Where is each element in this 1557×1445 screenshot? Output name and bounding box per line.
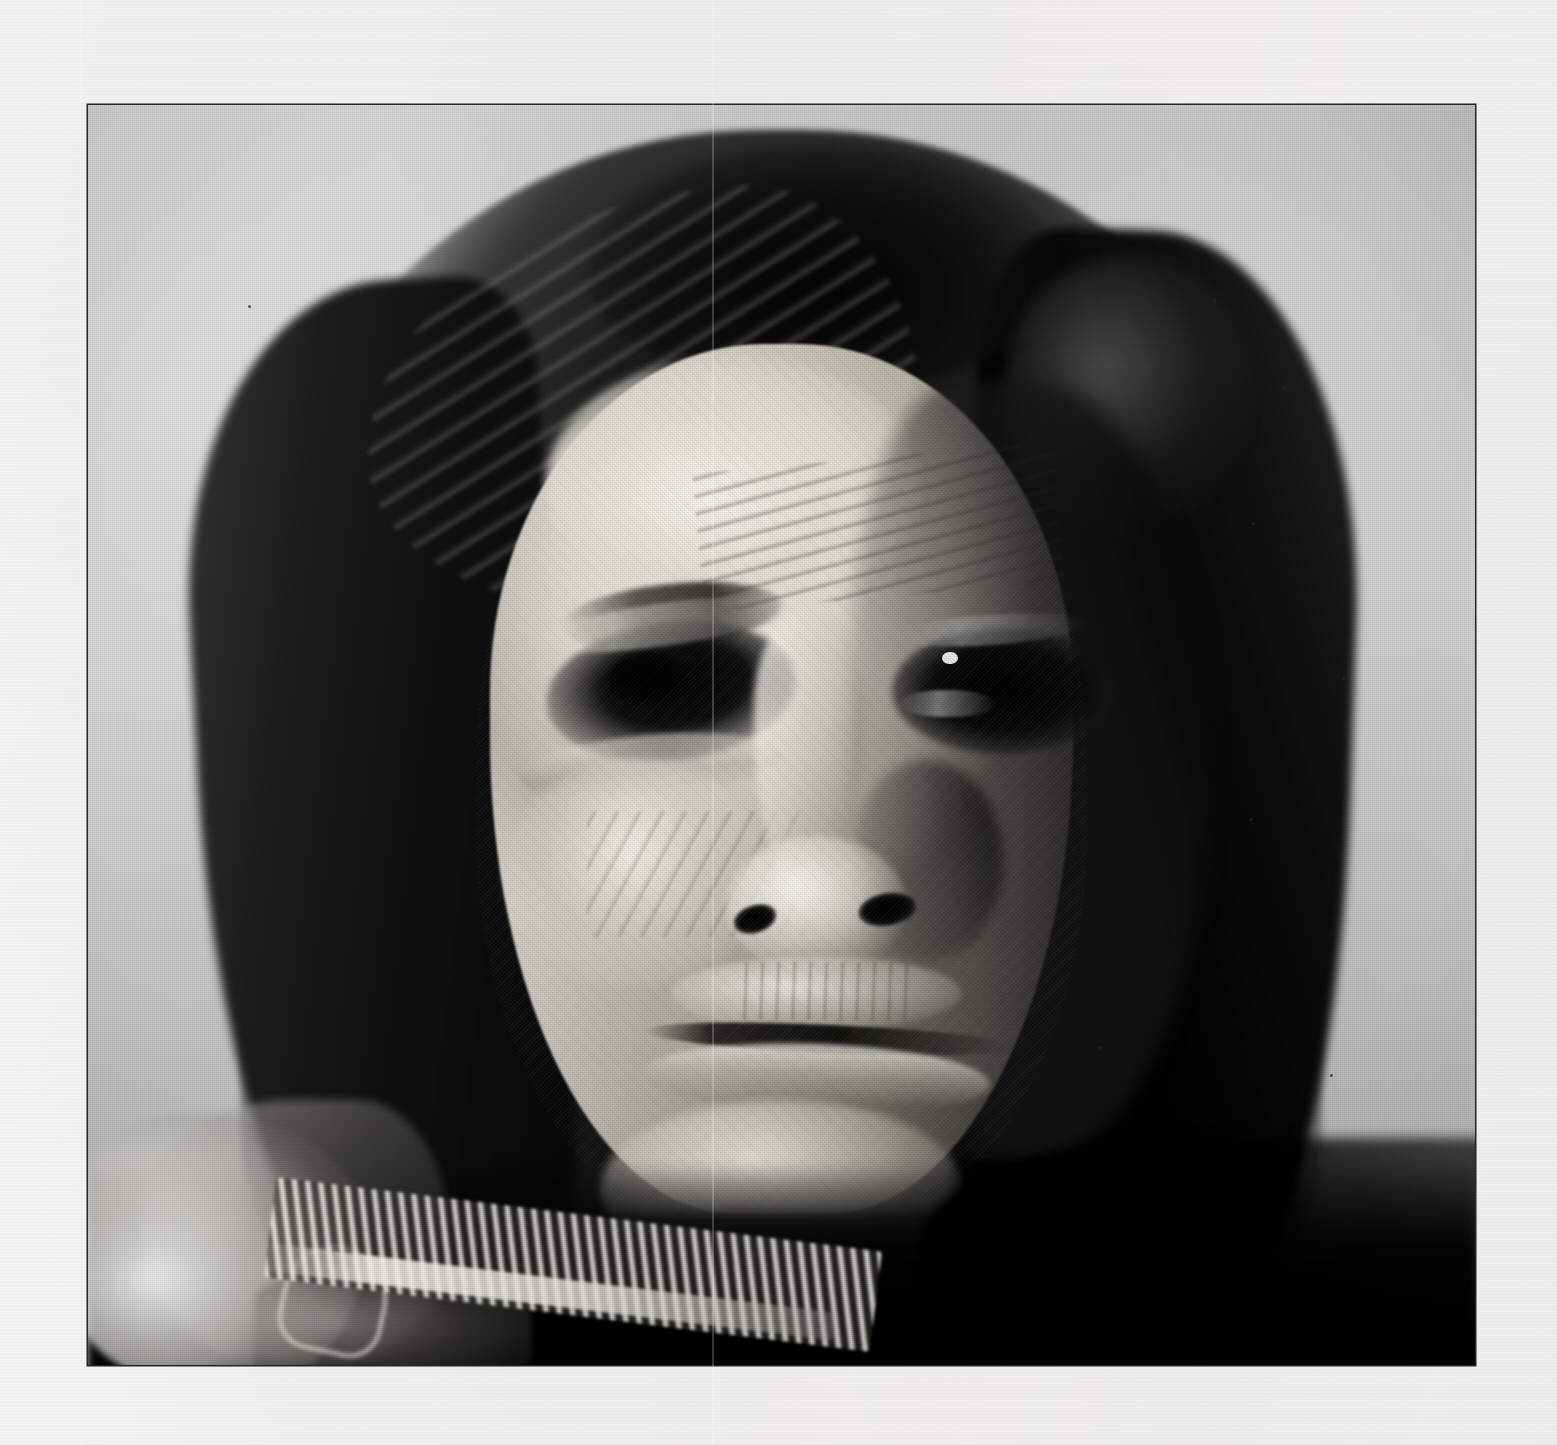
printed-page <box>0 0 1557 1445</box>
right-eye-catchlight <box>942 652 957 665</box>
upper-lip-creases <box>740 962 920 1020</box>
photographic-plate <box>88 105 1475 1365</box>
page-left-crease <box>80 0 82 1445</box>
